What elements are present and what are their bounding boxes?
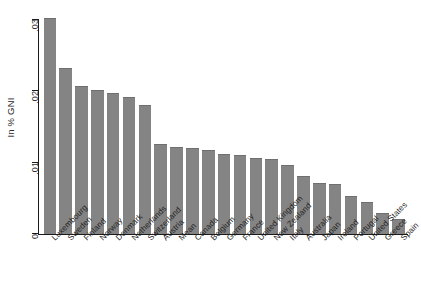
x-axis-category-labels: LuxembourgSwedenFinlandNorwayDenmarkNeth… — [39, 236, 414, 307]
y-axis-tick-mark — [32, 19, 38, 20]
y-axis-tick-mark — [32, 90, 38, 91]
bar — [107, 93, 120, 234]
bar — [91, 90, 104, 234]
bar — [44, 18, 57, 234]
y-axis-title-text: In % GNI — [5, 97, 16, 137]
y-axis-tick-mark — [32, 233, 38, 234]
bar — [123, 97, 136, 234]
plot-area — [39, 0, 408, 234]
y-axis-tick-mark — [32, 162, 38, 163]
y-axis-tick-labels: 0.01.02.03 — [20, 0, 37, 307]
bar — [59, 68, 72, 234]
y-axis-title: In % GNI — [0, 0, 20, 234]
